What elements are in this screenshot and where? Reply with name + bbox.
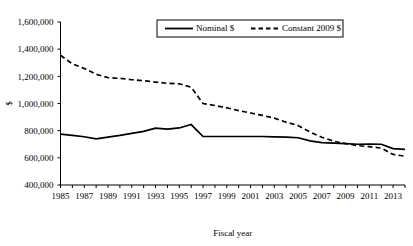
x-tick-label: 1987 [75,191,94,201]
line-chart: 400,000600,000800,0001,000,0001,200,0001… [0,0,413,246]
x-tick-label: 2001 [242,191,260,201]
series-line-constant-2009 [61,55,406,156]
x-tick-label: 2011 [361,191,379,201]
y-tick-label: 1,400,000 [18,44,55,54]
x-tick-label: 1995 [170,191,189,201]
x-tick-label: 2007 [313,191,332,201]
x-tick-label: 1991 [123,191,141,201]
y-tick-label: 1,200,000 [18,72,55,82]
x-axis-tick-labels: 1985198719891991199319951997199920012003… [52,191,403,201]
legend-label-constant-2009: Constant 2009 $ [282,23,342,33]
x-axis-title: Fiscal year [213,228,252,238]
x-tick-label: 1993 [147,191,166,201]
x-tick-label: 1999 [218,191,237,201]
x-tick-label: 2009 [337,191,356,201]
x-tick-label: 1997 [194,191,213,201]
y-tick-label: 1,000,000 [18,99,55,109]
chart-container: 400,000600,000800,0001,000,0001,200,0001… [0,0,413,246]
x-tick-label: 2003 [265,191,284,201]
x-tick-label: 2005 [289,191,308,201]
chart-legend: Nominal $ Constant 2009 $ [157,20,343,37]
x-tick-label: 2013 [384,191,403,201]
y-axis-tick-labels: 400,000600,000800,0001,000,0001,200,0001… [18,17,55,190]
x-tick-label: 1985 [52,191,71,201]
y-tick-label: 800,000 [24,126,54,136]
y-tick-label: 400,000 [24,180,54,190]
x-tick-label: 1989 [99,191,118,201]
legend-label-nominal: Nominal $ [196,23,235,33]
y-axis-title: $ [4,101,14,106]
y-tick-label: 1,600,000 [18,17,55,27]
y-tick-label: 600,000 [24,153,54,163]
